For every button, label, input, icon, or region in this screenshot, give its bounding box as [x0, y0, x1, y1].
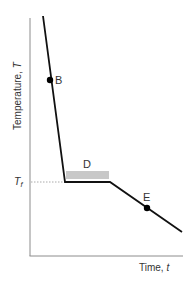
x-axis-label: Time, t: [139, 262, 170, 273]
point-e-marker: [144, 205, 150, 211]
y-axis-label-var: T: [12, 61, 23, 68]
cooling-curve: [43, 16, 182, 232]
y-axis-label-text: Temperature,: [12, 68, 23, 130]
x-axis-label-text: Time,: [139, 262, 166, 273]
point-e-label: E: [143, 191, 150, 203]
x-axis-label-var: t: [166, 262, 170, 273]
point-d-label: D: [83, 158, 91, 170]
y-axis-label: Temperature, T: [12, 61, 23, 130]
point-b-label: B: [55, 74, 62, 86]
tf-subscript: f: [20, 180, 23, 189]
tf-tick-label: Tf: [14, 175, 23, 189]
plateau-shade-d: [66, 171, 109, 179]
point-b-marker: [47, 77, 53, 83]
cooling-curve-diagram: B D E Tf Time, t Temperature, T: [0, 0, 194, 281]
